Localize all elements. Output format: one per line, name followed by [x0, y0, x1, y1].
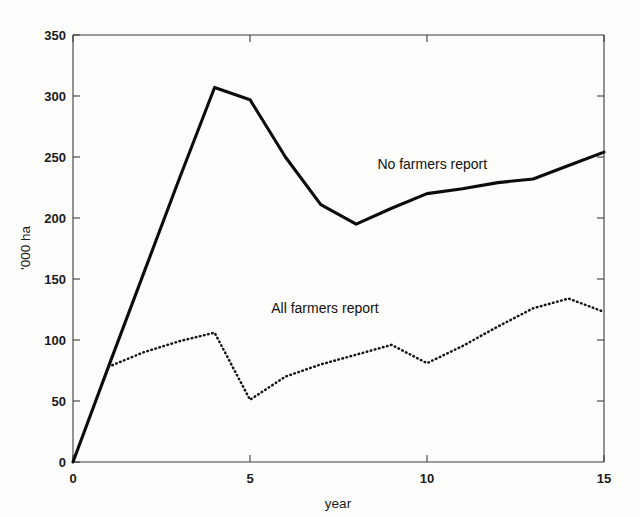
y-tick-label-0: 0	[59, 455, 66, 470]
y-tick-label-250: 250	[44, 150, 66, 165]
annotation-all-farmers-report: All farmers report	[271, 300, 378, 316]
y-tick-label-300: 300	[44, 89, 66, 104]
y-tick-label-350: 350	[44, 28, 66, 43]
x-tick-label-10: 10	[420, 471, 434, 486]
annotation-no-farmers-report: No farmers report	[377, 156, 487, 172]
chart-figure: 350 300 250 200 150 100 50 0 0 5 10 15 '…	[0, 0, 640, 517]
y-tick-label-150: 150	[44, 272, 66, 287]
y-axis-title: '000 ha	[18, 226, 33, 270]
series-no-farmers-report-line	[73, 87, 604, 462]
x-tick-label-0: 0	[69, 471, 76, 486]
x-axis-title: year	[325, 496, 352, 511]
y-tick-label-100: 100	[44, 333, 66, 348]
line-chart-canvas: 350 300 250 200 150 100 50 0 0 5 10 15 '…	[0, 0, 640, 517]
y-tick-marks	[73, 35, 80, 462]
x-tick-label-5: 5	[246, 471, 253, 486]
x-tick-labels: 0 5 10 15	[69, 471, 611, 486]
y-tick-label-50: 50	[52, 394, 66, 409]
y-tick-label-200: 200	[44, 211, 66, 226]
right-tick-marks	[597, 96, 604, 401]
y-tick-labels: 350 300 250 200 150 100 50 0	[44, 28, 66, 470]
x-tick-label-15: 15	[597, 471, 611, 486]
